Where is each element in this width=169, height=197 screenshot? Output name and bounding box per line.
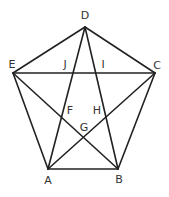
point-label-h: H [93,104,101,117]
point-label-j: J [62,58,66,71]
segment-ea [13,73,48,169]
segment-bd [85,27,118,169]
point-label-c: C [153,59,161,72]
point-label-f: F [67,104,73,117]
point-label-i: I [101,58,104,71]
point-label-g: G [80,121,89,134]
segment-ad [48,27,85,169]
point-label-e: E [9,58,16,71]
pentagon-diagram: DEJICFHGAB [0,0,169,197]
segment-cd [85,27,155,73]
point-label-d: D [81,9,89,22]
labels-group: DEJICFHGAB [9,9,162,187]
point-label-b: B [115,173,123,186]
point-label-a: A [44,174,52,187]
edges-group [13,27,155,169]
segment-bc [118,73,155,169]
